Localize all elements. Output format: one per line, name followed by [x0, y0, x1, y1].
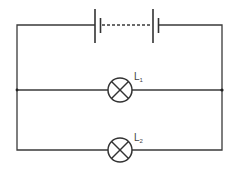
lamp-l2-label: L2 — [134, 132, 144, 144]
junction-right — [220, 88, 223, 91]
circuit-diagram: L1 L2 — [0, 0, 235, 170]
top-left-wire — [17, 25, 108, 150]
lamp-l1-label: L1 — [134, 71, 144, 83]
lamp-l1: L1 — [108, 71, 144, 102]
battery-symbol — [95, 9, 159, 43]
top-right-wire — [132, 25, 222, 150]
lamp-l2: L2 — [108, 132, 144, 162]
junction-left — [16, 89, 19, 92]
